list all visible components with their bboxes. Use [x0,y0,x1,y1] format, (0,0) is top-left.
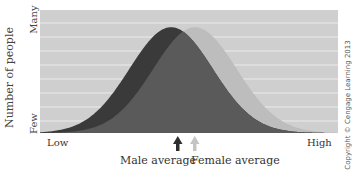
male-average-label: Male average [120,154,196,167]
y-tick-many: Many [27,4,39,34]
x-tick-high: High [307,137,332,148]
copyright-notice: Copyright © Cengage Learning 2013 [343,40,353,170]
male-average-arrow-icon [173,136,183,151]
female-average-label: Female average [191,154,280,167]
chart-canvas [0,0,354,175]
y-tick-few: Few [27,110,39,136]
y-axis-label: Number of people [2,22,16,132]
x-tick-low: Low [47,137,68,148]
female-average-arrow-icon [190,136,200,151]
